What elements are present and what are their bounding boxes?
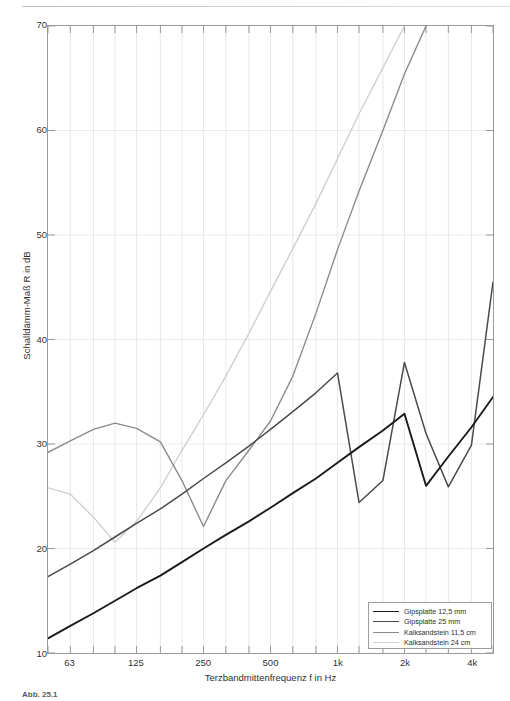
legend-item-label: Gipsplatte 12,5 mm [404, 608, 466, 615]
figure-caption: Abb. 25.1 [22, 690, 492, 701]
legend-line-swatch [373, 642, 399, 643]
x-axis-title: Terzbandmittenfrequenz f in Hz [47, 672, 494, 683]
x-tick-label: 1k [333, 658, 343, 668]
legend-line-swatch [373, 632, 399, 633]
chart-legend: Gipsplatte 12,5 mmGipsplatte 25 mmKalksa… [368, 602, 492, 649]
x-tick-label: 500 [263, 658, 279, 668]
figure-caption-number: Abb. 25.1 [22, 690, 58, 699]
y-tick-label: 20 [21, 544, 47, 554]
y-axis-title: Schalldämm-Maß R in dB [21, 206, 32, 406]
legend-line-swatch [373, 611, 399, 612]
y-tick-label: 10 [21, 649, 47, 659]
x-tick-label: 125 [128, 658, 144, 668]
legend-item: Gipsplatte 12,5 mm [373, 606, 487, 617]
x-tick-label: 250 [195, 658, 211, 668]
x-tick-label: 2k [400, 658, 410, 668]
legend-item: Kalksandstein 24 cm [373, 638, 487, 649]
legend-item-label: Kalksandstein 11,5 cm [404, 629, 476, 636]
figure-chart: 10203040506070 631252505001k2k4k Schalld… [0, 0, 510, 701]
plot-area [47, 25, 494, 654]
y-tick-label: 70 [21, 20, 47, 30]
y-tick-label: 30 [21, 440, 47, 450]
y-tick-label: 60 [21, 125, 47, 135]
plot-canvas [48, 26, 493, 653]
legend-item: Kalksandstein 11,5 cm [373, 627, 487, 638]
x-tick-label: 63 [64, 658, 75, 668]
page: 10203040506070 631252505001k2k4k Schalld… [0, 0, 510, 701]
legend-item-label: Kalksandstein 24 cm [404, 639, 470, 646]
x-tick-label: 4k [467, 658, 477, 668]
legend-line-swatch [373, 621, 399, 622]
legend-item-label: Gipsplatte 25 mm [404, 618, 460, 625]
legend-item: Gipsplatte 25 mm [373, 617, 487, 628]
